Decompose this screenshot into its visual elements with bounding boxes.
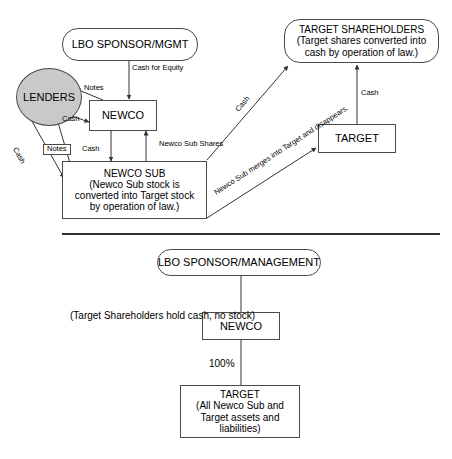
edge-label-notes-to-lenders: Notes	[84, 84, 104, 93]
node-lbo-sponsor-mgmt-label: LBO SPONSOR/MGMT	[72, 38, 189, 50]
edge-label-cash-newco-to-sub: Cash	[82, 145, 100, 154]
edge-label-cash-for-equity: Cash for Equity	[132, 64, 183, 73]
edge-label-ownership-percent-text: 100%	[209, 358, 235, 369]
node-target-shareholders[interactable]: TARGET SHAREHOLDERS (Target shares conve…	[284, 19, 439, 63]
edge-label-cash-to-lenders-text: Cash	[62, 114, 80, 123]
edge-label-cash-newco-to-sub-text: Cash	[82, 144, 100, 153]
node-bottom-lbo-sponsor-management-label: LBO SPONSOR/MANAGEMENT	[158, 256, 320, 268]
node-target[interactable]: TARGET	[318, 124, 396, 153]
edge-label-notes-boxed-text: Notes	[47, 144, 67, 153]
node-bottom-target[interactable]: TARGET (All Newco Sub and Target assets …	[180, 385, 300, 438]
edge-label-notes-boxed: Notes	[43, 144, 71, 155]
edge-label-ownership-percent: 100%	[209, 358, 235, 370]
annotation-shareholders-note-l1: (Target	[70, 310, 101, 321]
edge-label-cash-target-to-shareholders-text: Cash	[361, 88, 379, 97]
annotation-shareholders-note: (Target Shareholders hold cash, no stock…	[70, 310, 255, 322]
node-lenders-label: LENDERS	[23, 91, 75, 103]
edge-label-cash-for-equity-l1: Cash	[132, 63, 150, 72]
node-newco-sub-title: NEWCO SUB	[104, 168, 166, 179]
node-newco-sub[interactable]: NEWCO SUB (Newco Sub stock is converted …	[62, 161, 207, 219]
node-newco[interactable]: NEWCO	[89, 100, 157, 131]
node-bottom-target-line4: liabilities)	[219, 423, 260, 434]
edge-label-newco-sub-shares-l1: Newco	[159, 139, 182, 148]
annotation-shareholders-note-l2: Shareholders hold	[104, 310, 185, 321]
node-bottom-lbo-sponsor-management[interactable]: LBO SPONSOR/MANAGEMENT	[157, 249, 321, 276]
node-bottom-newco-label: NEWCO	[220, 320, 262, 332]
node-newco-label: NEWCO	[102, 109, 144, 121]
node-target-shareholders-line2: (Target shares converted into	[297, 35, 427, 46]
node-target-shareholders-title: TARGET SHAREHOLDERS	[299, 24, 424, 35]
node-bottom-target-line3: Target assets and	[201, 412, 280, 423]
node-bottom-target-title: TARGET	[220, 389, 260, 400]
edge-label-cash-target-to-shareholders: Cash	[361, 89, 379, 98]
edge-label-notes-to-lenders-text: Notes	[84, 83, 104, 92]
connector-sub-to-lenders-notes	[57, 119, 70, 163]
node-lbo-sponsor-mgmt[interactable]: LBO SPONSOR/MGMT	[62, 28, 198, 61]
node-target-shareholders-line3: cash by operation of law.)	[305, 47, 418, 58]
edge-label-cash-for-equity-l2: for	[152, 63, 161, 72]
edge-label-cash-to-lenders: Cash	[62, 115, 80, 124]
edge-label-newco-sub-shares-l2: Sub Shares	[184, 139, 223, 148]
node-bottom-target-line2: (All Newco Sub and	[196, 400, 284, 411]
diagram-canvas: LBO SPONSOR/MGMT LENDERS NEWCO NEWCO SUB…	[0, 0, 452, 459]
node-newco-sub-line2: (Newco Sub stock is	[89, 179, 180, 190]
edge-label-newco-sub-shares: Newco Sub Shares	[159, 140, 223, 149]
node-newco-sub-line4: by operation of law.)	[90, 201, 180, 212]
edge-label-cash-for-equity-l3: Equity	[162, 63, 183, 72]
node-target-label: TARGET	[335, 132, 379, 144]
node-newco-sub-line3: converted into Target stock	[75, 190, 194, 201]
annotation-shareholders-note-l3: cash, no stock)	[188, 310, 255, 321]
